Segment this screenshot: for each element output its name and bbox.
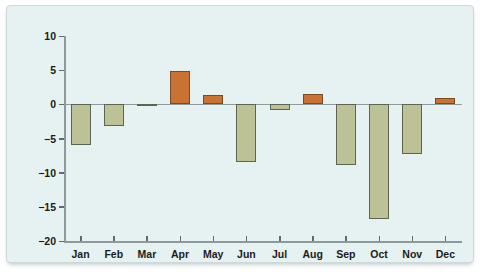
bar-jan <box>71 104 91 145</box>
x-axis-tick-label-may: May <box>203 249 223 260</box>
y-axis-tick-label: −15 <box>38 202 56 213</box>
bar-nov <box>402 104 422 153</box>
bar-may <box>203 95 223 104</box>
x-axis-tick <box>113 236 115 241</box>
y-axis-tick <box>59 70 64 72</box>
bar-feb <box>104 104 124 126</box>
x-axis-tick-label-sep: Sep <box>336 249 355 260</box>
bar-sep <box>336 104 356 165</box>
chart-figure: 1050−5−10−15−20JanFebMarAprMayJunJulAugS… <box>6 5 474 263</box>
y-axis-tick-label: 10 <box>44 31 56 42</box>
bar-jun <box>236 104 256 162</box>
y-axis-line <box>64 36 66 241</box>
x-axis-tick <box>279 236 281 241</box>
x-axis-tick <box>412 236 414 241</box>
x-axis-tick <box>379 236 381 241</box>
bar-jul <box>270 104 290 110</box>
y-axis-tick-label: −5 <box>44 133 56 144</box>
x-axis-tick-label-oct: Oct <box>370 249 388 260</box>
x-axis-tick-label-jan: Jan <box>72 249 90 260</box>
y-axis-tick <box>59 241 64 243</box>
x-axis-tick-label-nov: Nov <box>402 249 422 260</box>
bar-mar <box>137 104 157 106</box>
x-axis-tick-label-aug: Aug <box>303 249 323 260</box>
x-axis-tick <box>146 236 148 241</box>
y-axis-tick <box>59 206 64 208</box>
bar-oct <box>369 104 389 219</box>
y-axis-tick-label: −20 <box>38 236 56 247</box>
x-axis-tick <box>445 236 447 241</box>
bar-chart-plot-area: 1050−5−10−15−20JanFebMarAprMayJunJulAugS… <box>7 6 474 263</box>
x-axis-tick-label-apr: Apr <box>171 249 189 260</box>
x-axis-tick-label-mar: Mar <box>138 249 157 260</box>
x-axis-tick <box>246 236 248 241</box>
y-axis-tick <box>59 172 64 174</box>
y-axis-tick-label: 0 <box>50 99 56 110</box>
x-axis-tick-label-dec: Dec <box>436 249 455 260</box>
x-axis-tick <box>80 236 82 241</box>
x-axis-tick <box>345 236 347 241</box>
x-axis-tick-label-jun: Jun <box>237 249 256 260</box>
bar-dec <box>435 98 455 105</box>
y-axis-tick <box>59 104 64 106</box>
y-axis-tick <box>59 138 64 140</box>
x-axis-tick-label-feb: Feb <box>104 249 123 260</box>
y-axis-tick-label: −10 <box>38 167 56 178</box>
x-axis-tick-label-jul: Jul <box>272 249 287 260</box>
x-axis-tick <box>312 236 314 241</box>
y-axis-tick-label: 5 <box>50 65 56 76</box>
x-axis-line <box>64 241 462 243</box>
x-axis-tick <box>180 236 182 241</box>
y-axis-tick <box>59 36 64 38</box>
x-axis-tick <box>213 236 215 241</box>
bar-apr <box>170 71 190 104</box>
bar-aug <box>303 94 323 104</box>
